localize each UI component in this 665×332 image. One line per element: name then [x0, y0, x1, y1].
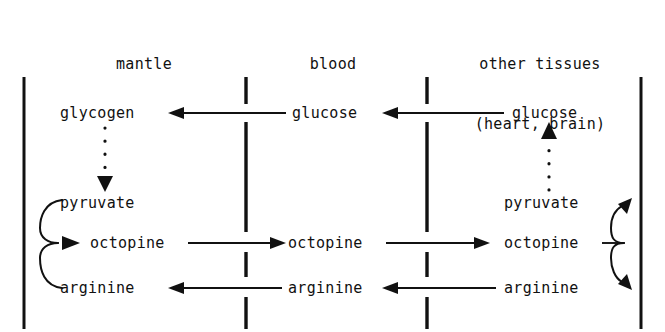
node-mantle-octopine: octopine [90, 235, 165, 251]
node-tissue-pyruvate: pyruvate [504, 195, 579, 211]
node-blood-octopine: octopine [288, 235, 363, 251]
node-mantle-pyruvate: pyruvate [60, 195, 135, 211]
node-mantle-glycogen: glycogen [60, 105, 135, 121]
column-header-other-tissues: other tissues (heart, brain) [440, 14, 640, 174]
edge-mantle-octopine-to-blood-octopine [188, 237, 286, 249]
column-header-mantle-line1: mantle [54, 54, 234, 74]
node-tissue-octopine: octopine [504, 235, 579, 251]
node-tissue-arginine: arginine [504, 280, 579, 296]
node-mantle-arginine: arginine [60, 280, 135, 296]
column-header-other-tissues-line1: other tissues [440, 54, 640, 74]
node-blood-glucose: glucose [292, 105, 357, 121]
column-header-mantle: mantle [54, 14, 234, 114]
node-blood-arginine: arginine [288, 280, 363, 296]
column-header-blood-line1: blood [258, 54, 408, 74]
edge-mantle-octopine-synthesis-brace [40, 200, 80, 288]
edge-blood-octopine-to-tissue-octopine [386, 237, 490, 249]
edge-glycogen-to-pyruvate-dotted [97, 128, 113, 192]
column-header-blood: blood [258, 14, 408, 114]
edge-tissue-octopine-breakdown-brace [602, 198, 632, 290]
edge-tissue-arginine-to-blood-arginine [382, 282, 496, 294]
octopine-shuttle-diagram: mantle blood other tissues (heart, brain… [0, 0, 665, 332]
node-tissue-glucose: glucose [512, 105, 577, 121]
edge-blood-arginine-to-mantle-arginine [168, 282, 282, 294]
